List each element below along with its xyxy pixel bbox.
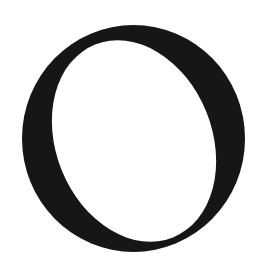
letter-o-glyph: O	[0, 0, 269, 274]
glyph-outer-ring	[22, 25, 245, 252]
letter-o-shape	[0, 0, 269, 274]
